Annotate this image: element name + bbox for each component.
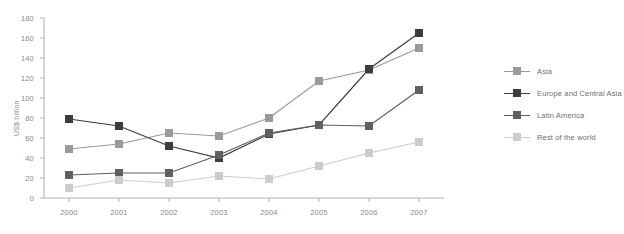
series-marker [265, 175, 273, 183]
legend-label: Latin America [537, 111, 584, 120]
x-axis-tick-label: 2002 [149, 208, 189, 217]
x-axis-tick-label: 2001 [99, 208, 139, 217]
y-axis-tick-label: 60 [12, 134, 34, 143]
series-marker [215, 172, 223, 180]
y-axis-tick-label: 180 [12, 14, 34, 23]
legend-swatch-icon [504, 88, 530, 98]
series-marker [115, 140, 123, 148]
series-marker [265, 129, 273, 137]
series-marker [265, 114, 273, 122]
series-line [69, 90, 419, 175]
y-axis-tick-label: 120 [12, 74, 34, 83]
y-axis-tick-label: 80 [12, 114, 34, 123]
legend-item[interactable]: Rest of the world [504, 126, 622, 148]
y-axis-tick-label: 100 [12, 94, 34, 103]
legend-marker [513, 133, 521, 141]
series-marker [65, 145, 73, 153]
legend-item[interactable]: Asia [504, 60, 622, 82]
y-axis-tick-label: 0 [12, 194, 34, 203]
legend-marker [513, 67, 521, 75]
x-axis-tick-label: 2003 [199, 208, 239, 217]
y-axis-tick-label: 40 [12, 154, 34, 163]
series-line [69, 48, 419, 149]
series-marker [415, 86, 423, 94]
series-marker [315, 162, 323, 170]
series-marker [165, 179, 173, 187]
series-marker [165, 129, 173, 137]
x-axis-tick-label: 2000 [49, 208, 89, 217]
series-marker [165, 169, 173, 177]
series-marker [215, 151, 223, 159]
legend-swatch-icon [504, 110, 530, 120]
legend-swatch-icon [504, 66, 530, 76]
line-chart: US$ billion 020406080100120140160180 200… [0, 0, 624, 234]
series-marker [365, 122, 373, 130]
legend-swatch-icon [504, 132, 530, 142]
x-axis-tick-label: 2006 [349, 208, 389, 217]
legend-label: Rest of the world [537, 133, 596, 142]
series-marker [365, 149, 373, 157]
series-marker [415, 138, 423, 146]
y-axis-tick-label: 140 [12, 54, 34, 63]
series-marker [115, 176, 123, 184]
series-marker [65, 184, 73, 192]
legend-item[interactable]: Europe and Central Asia [504, 82, 622, 104]
legend-marker [513, 89, 521, 97]
y-axis-tick-label: 160 [12, 34, 34, 43]
series-marker [365, 65, 373, 73]
series-marker [215, 132, 223, 140]
x-axis-tick-label: 2007 [399, 208, 439, 217]
y-axis-tick-label: 20 [12, 174, 34, 183]
series-marker [65, 115, 73, 123]
legend-marker [513, 111, 521, 119]
x-axis-tick-label: 2004 [249, 208, 289, 217]
series-marker [165, 142, 173, 150]
series-marker [65, 171, 73, 179]
series-marker [115, 169, 123, 177]
legend-label: Europe and Central Asia [537, 89, 622, 98]
series-marker [115, 122, 123, 130]
x-axis-tick-label: 2005 [299, 208, 339, 217]
series-line [69, 33, 419, 158]
legend-label: Asia [537, 67, 552, 76]
legend-item[interactable]: Latin America [504, 104, 622, 126]
series-marker [315, 121, 323, 129]
chart-legend: AsiaEurope and Central AsiaLatin America… [504, 60, 622, 148]
series-marker [415, 44, 423, 52]
series-marker [315, 77, 323, 85]
series-marker [415, 29, 423, 37]
